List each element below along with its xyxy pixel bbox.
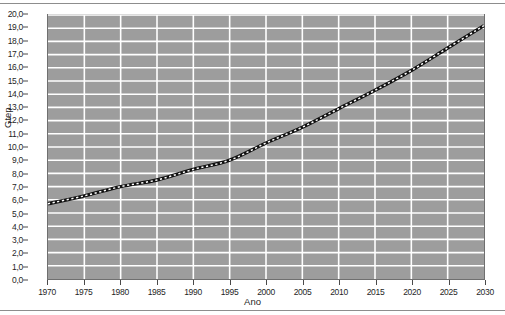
y-axis-tick-label: 5,0 (12, 209, 23, 219)
x-axis-tick-mark (303, 280, 304, 285)
x-axis-tick-mark (230, 280, 231, 285)
chart-figure: Gtep 0,01,02,03,04,05,06,07,08,09,010,01… (0, 0, 505, 315)
top-divider-rule (0, 3, 505, 4)
y-axis-tick-mark (23, 200, 28, 201)
x-axis-tick-mark (193, 280, 194, 285)
x-axis-tick-mark (47, 280, 48, 285)
y-axis-tick-mark (23, 27, 28, 28)
y-axis-tick-label: 14,0 (8, 89, 23, 99)
y-axis-tick-mark (23, 67, 28, 68)
y-axis-tick-mark (23, 53, 28, 54)
y-axis-tick-label: 15,0 (8, 76, 23, 86)
y-axis-tick-mark (23, 14, 28, 15)
data-series-line (48, 15, 484, 279)
y-axis-tick-label: 7,0 (12, 182, 23, 192)
x-axis-tick-mark (84, 280, 85, 285)
y-axis-tick-label: 16,0 (8, 62, 23, 72)
x-axis-tick-mark (376, 280, 377, 285)
y-axis-tick-mark (23, 253, 28, 254)
x-axis-title: Ano (0, 296, 505, 307)
x-axis-tick-mark (339, 280, 340, 285)
y-axis-tick-mark (23, 133, 28, 134)
y-axis-tick-label: 17,0 (8, 49, 23, 59)
x-axis-tick-mark (485, 280, 486, 285)
y-axis-tick-label: 1,0 (12, 262, 23, 272)
y-axis-tick-label: 8,0 (12, 169, 23, 179)
y-axis-tick-label: 2,0 (12, 248, 23, 258)
y-axis-tick-label: 4,0 (12, 222, 23, 232)
x-axis-tick-mark (412, 280, 413, 285)
y-axis-tick-mark (23, 173, 28, 174)
y-axis-tick-label: 9,0 (12, 155, 23, 165)
x-axis-tick-mark (449, 280, 450, 285)
y-axis-tick-mark (23, 147, 28, 148)
y-axis-tick-mark (23, 186, 28, 187)
y-axis-tick-mark (23, 107, 28, 108)
plot-area (47, 14, 485, 280)
y-axis-tick-mark (23, 40, 28, 41)
y-axis-tick-label: 12,0 (8, 115, 23, 125)
y-axis-tick-mark (23, 160, 28, 161)
y-axis-tick-mark (23, 80, 28, 81)
x-axis-tick-mark (157, 280, 158, 285)
y-axis-tick-label: 3,0 (12, 235, 23, 245)
y-axis-tick-label: 19,0 (8, 22, 23, 32)
y-axis-tick-label: 6,0 (12, 195, 23, 205)
y-axis-ticks: 0,01,02,03,04,05,06,07,08,09,010,011,012… (0, 0, 47, 315)
y-axis-tick-label: 10,0 (8, 142, 23, 152)
x-axis-tick-mark (266, 280, 267, 285)
y-axis-tick-label: 18,0 (8, 36, 23, 46)
y-axis-tick-mark (23, 120, 28, 121)
y-axis-tick-label: 11,0 (8, 129, 23, 139)
y-axis-tick-label: 13,0 (8, 102, 23, 112)
y-axis-tick-mark (23, 266, 28, 267)
y-axis-tick-mark (23, 213, 28, 214)
y-axis-tick-label: 20,0 (8, 9, 23, 19)
y-axis-tick-mark (23, 240, 28, 241)
x-axis-tick-mark (120, 280, 121, 285)
y-axis-tick-mark (23, 226, 28, 227)
y-axis-tick-mark (23, 93, 28, 94)
